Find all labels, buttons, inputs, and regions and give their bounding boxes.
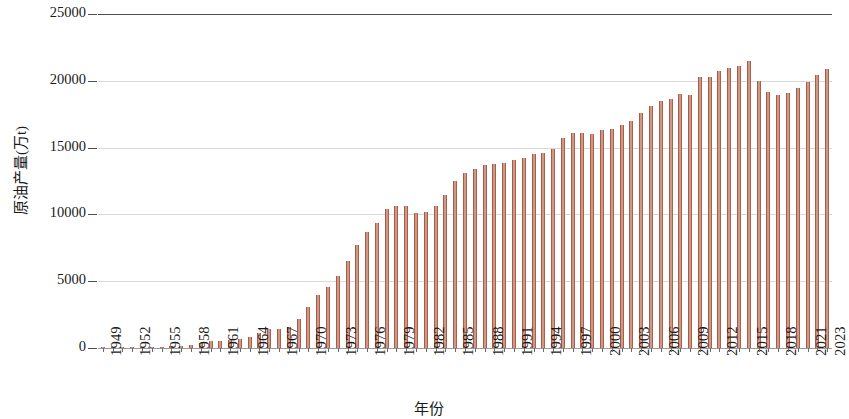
y-tick-mark-5000 (88, 281, 97, 282)
y-tick-label-25000: 25000 (0, 4, 86, 21)
bar (277, 329, 281, 348)
x-tick-mark (690, 348, 691, 352)
x-tick-mark (524, 348, 525, 352)
x-tick-mark (113, 348, 114, 352)
x-tick-mark (250, 348, 251, 352)
bar (629, 121, 633, 348)
bar (551, 149, 555, 348)
bar (522, 158, 526, 348)
x-tick-mark (808, 348, 809, 352)
bar (610, 129, 614, 348)
x-tick-mark (739, 348, 740, 352)
x-tick-mark (592, 348, 593, 352)
x-tick-mark (602, 348, 603, 352)
bar (659, 101, 663, 348)
bar (620, 125, 624, 348)
x-tick-mark (680, 348, 681, 352)
x-tick-mark (308, 348, 309, 352)
x-tick-mark (455, 348, 456, 352)
bar (776, 95, 780, 348)
x-tick-mark (357, 348, 358, 352)
y-tick-mark-25000 (88, 14, 97, 15)
x-tick-mark (181, 348, 182, 352)
bar (512, 160, 516, 348)
bar (825, 69, 829, 348)
x-tick-mark (622, 348, 623, 352)
bar (502, 163, 506, 348)
bar (541, 153, 545, 348)
bar (649, 106, 653, 348)
bar (737, 66, 741, 348)
x-tick-mark (201, 348, 202, 352)
x-tick-mark (436, 348, 437, 352)
bar (306, 307, 310, 348)
bar (815, 75, 819, 349)
bar (600, 130, 604, 348)
x-tick-mark (553, 348, 554, 352)
y-tick-label-10000: 10000 (0, 204, 86, 221)
bar (678, 94, 682, 348)
x-tick-mark (220, 348, 221, 352)
bar (463, 173, 467, 348)
bar (580, 133, 584, 348)
x-tick-mark (534, 348, 535, 352)
x-tick-mark (494, 348, 495, 352)
bar (717, 71, 721, 348)
bar (757, 81, 761, 348)
bar (590, 134, 594, 348)
bar (747, 61, 751, 348)
bar (532, 154, 536, 348)
bar (483, 165, 487, 348)
x-tick-mark (631, 348, 632, 352)
x-tick-mark (191, 348, 192, 352)
bar (473, 169, 477, 348)
x-tick-mark (396, 348, 397, 352)
gridline-15000 (98, 148, 832, 149)
y-tick-mark-10000 (88, 214, 97, 215)
x-tick-mark (671, 348, 672, 352)
y-tick-label-5000: 5000 (0, 271, 86, 288)
bar (786, 93, 790, 348)
bar (336, 276, 340, 348)
x-tick-mark (543, 348, 544, 352)
x-tick-mark (318, 348, 319, 352)
x-tick-mark (279, 348, 280, 352)
x-tick-mark (445, 348, 446, 352)
x-tick-mark (289, 348, 290, 352)
bar (365, 232, 369, 348)
bar (708, 77, 712, 348)
x-tick-mark (328, 348, 329, 352)
x-tick-mark (612, 348, 613, 352)
x-tick-mark (485, 348, 486, 352)
y-axis-title: 原油产量(万t) (9, 96, 30, 246)
x-tick-mark (788, 348, 789, 352)
bar (796, 88, 800, 348)
x-tick-mark (103, 348, 104, 352)
x-tick-mark (651, 348, 652, 352)
bar (639, 113, 643, 348)
x-axis-title-text: 年份 (414, 401, 444, 417)
x-tick-mark (269, 348, 270, 352)
x-tick-mark (641, 348, 642, 352)
x-tick-mark (406, 348, 407, 352)
plot-area (98, 14, 832, 348)
bar (669, 99, 673, 348)
x-tick-mark (240, 348, 241, 352)
x-tick-mark (749, 348, 750, 352)
x-tick-mark (475, 348, 476, 352)
bar (248, 337, 252, 348)
x-tick-mark (377, 348, 378, 352)
x-tick-mark (582, 348, 583, 352)
x-tick-mark (122, 348, 123, 352)
bar (218, 341, 222, 348)
x-tick-mark (729, 348, 730, 352)
x-tick-mark (171, 348, 172, 352)
x-tick-mark (387, 348, 388, 352)
x-tick-mark (700, 348, 701, 352)
x-tick-mark (504, 348, 505, 352)
bar (571, 133, 575, 348)
x-tick-mark (338, 348, 339, 352)
x-tick-mark (719, 348, 720, 352)
y-tick-mark-20000 (88, 81, 97, 82)
